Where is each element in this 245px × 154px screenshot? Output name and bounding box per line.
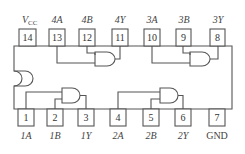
- label-1b: 1B: [49, 130, 60, 141]
- and-gate-symbol: [160, 88, 178, 103]
- and-gate-symbol: [190, 52, 210, 66]
- svg-text:3: 3: [84, 112, 89, 123]
- svg-text:9: 9: [181, 32, 186, 43]
- svg-text:14: 14: [23, 32, 33, 43]
- svg-text:7: 7: [215, 112, 220, 123]
- pin-7: 7: [209, 109, 225, 126]
- pin-2: 2: [47, 109, 63, 126]
- svg-text:8: 8: [215, 32, 220, 43]
- label-2y: 2Y: [178, 130, 190, 141]
- pin-14: 14: [19, 29, 36, 46]
- chip-body: [14, 46, 232, 109]
- ic-pinout-diagram: 14 13 12 11 10 9 8 VCC 4A 4B 4Y 3A 3B 3Y…: [0, 0, 245, 154]
- pin-3: 3: [78, 109, 94, 126]
- label-3y: 3Y: [212, 14, 225, 25]
- pin-11: 11: [112, 29, 128, 46]
- gate-1: [26, 88, 86, 109]
- orientation-notch: [14, 71, 33, 86]
- gate-4: [57, 46, 120, 66]
- label-4y: 4Y: [115, 14, 127, 25]
- label-4a: 4A: [51, 14, 63, 25]
- svg-text:1: 1: [24, 112, 29, 123]
- pin-8: 8: [210, 29, 225, 46]
- svg-text:2: 2: [53, 112, 58, 123]
- pin-4: 4: [110, 109, 126, 126]
- and-gate-symbol: [95, 52, 115, 66]
- pin-13: 13: [49, 29, 65, 46]
- pin-6: 6: [175, 109, 191, 126]
- pin-5: 5: [143, 109, 159, 126]
- label-4b: 4B: [81, 14, 92, 25]
- label-2a: 2A: [112, 130, 124, 141]
- label-1a: 1A: [20, 130, 32, 141]
- and-gate-symbol: [62, 88, 80, 103]
- pin-1: 1: [18, 109, 34, 126]
- svg-text:11: 11: [115, 32, 125, 43]
- gate-2: [118, 88, 183, 109]
- label-3a: 3A: [145, 14, 158, 25]
- svg-text:13: 13: [52, 32, 62, 43]
- pin-9: 9: [176, 29, 191, 46]
- gate-3: [152, 46, 218, 66]
- svg-text:6: 6: [181, 112, 186, 123]
- svg-text:4: 4: [116, 112, 121, 123]
- svg-text:5: 5: [149, 112, 154, 123]
- label-1y: 1Y: [81, 130, 93, 141]
- label-vcc: VCC: [22, 14, 38, 27]
- label-3b: 3B: [177, 14, 189, 25]
- pin-10: 10: [144, 29, 160, 46]
- label-2b: 2B: [145, 130, 156, 141]
- label-gnd: GND: [206, 130, 228, 141]
- svg-text:10: 10: [147, 32, 157, 43]
- pin-12: 12: [79, 29, 95, 46]
- svg-text:12: 12: [82, 32, 92, 43]
